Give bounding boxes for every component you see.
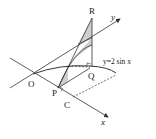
label-c: C [64, 100, 70, 110]
label-p: P [52, 88, 57, 98]
label-y-axis: y [110, 12, 115, 22]
label-q: Q [88, 71, 95, 81]
label-x-axis: x [100, 117, 105, 127]
dashed-c-line [73, 75, 116, 97]
label-r: R [89, 6, 95, 16]
diagram-canvas: O P C Q R x y y=2 sin x [0, 0, 156, 139]
label-origin: O [28, 79, 35, 89]
sine-curve [33, 66, 116, 74]
label-curve-equation: y=2 sin x [103, 57, 131, 66]
